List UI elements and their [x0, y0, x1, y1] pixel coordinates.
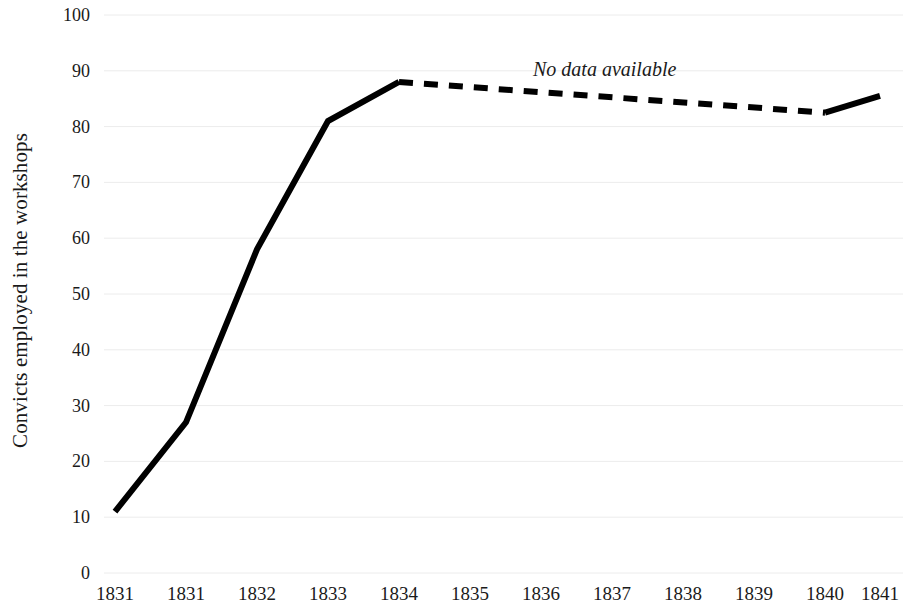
- x-axis-tick-label: 1840: [806, 583, 844, 605]
- x-axis-tick-label: 1837: [593, 583, 631, 605]
- x-axis-tick-label: 1831: [96, 583, 134, 605]
- x-axis-tick-label: 1831: [167, 583, 205, 605]
- x-axis-tick-label: 1832: [238, 583, 276, 605]
- annotation-no-data: No data available: [533, 58, 676, 81]
- x-axis-tick-label: 1839: [735, 583, 773, 605]
- x-axis-tick-label: 1833: [309, 583, 347, 605]
- x-axis-tick-label: 1841: [861, 583, 899, 605]
- data-line-dashed: [399, 82, 825, 113]
- x-axis-tick-label: 1835: [451, 583, 489, 605]
- x-axis-tick-labels: 1831183118321833183418351836183718381839…: [0, 583, 903, 615]
- data-line-solid: [825, 96, 880, 113]
- x-axis-tick-label: 1836: [522, 583, 560, 605]
- x-axis-tick-label: 1838: [664, 583, 702, 605]
- line-chart: Convicts employed in the workshops 01020…: [0, 0, 903, 615]
- annotation-new-workshops: New workshops approved and commenced: [0, 227, 401, 571]
- x-axis-tick-label: 1834: [380, 583, 418, 605]
